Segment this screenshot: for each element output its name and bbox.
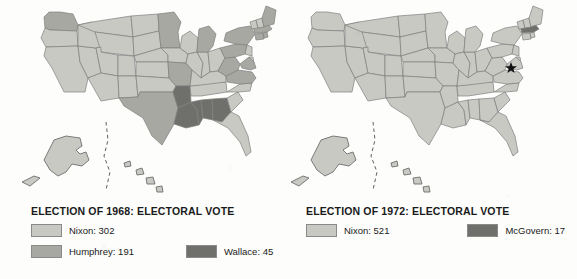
- title-1972: ELECTION OF 1972: ELECTORAL VOTE: [287, 196, 577, 217]
- legend-label-nixon-1968: Nixon: 302: [69, 225, 114, 236]
- state-pa[interactable]: [220, 44, 247, 58]
- legend-1972: Nixon: 521 McGovern: 17: [287, 217, 577, 239]
- state-az[interactable]: [88, 73, 119, 101]
- state-nc[interactable]: [494, 83, 519, 92]
- legend-1968: Nixon: 302 Humphrey: 191 Wallace: 45: [0, 217, 290, 260]
- state-ak[interactable]: [22, 136, 89, 186]
- map-1972-svg: [287, 0, 577, 196]
- caption-1968: ELECTION OF 1968: ELECTORAL VOTE Nixon: …: [0, 196, 290, 264]
- state-mn[interactable]: [425, 12, 448, 48]
- state-ny[interactable]: [491, 26, 522, 45]
- swatch-mcgovern-1972: [467, 224, 498, 237]
- legend-label-humphrey-1968: Humphrey: 191: [69, 246, 134, 257]
- state-me[interactable]: [262, 6, 276, 27]
- title-1968: ELECTION OF 1968: ELECTORAL VOTE: [0, 196, 290, 217]
- caption-1972: ELECTION OF 1972: ELECTORAL VOTE Nixon: …: [287, 196, 577, 243]
- state-wa[interactable]: [311, 12, 345, 31]
- state-ri[interactable]: [530, 32, 535, 38]
- legend-label-nixon-1972: Nixon: 521: [344, 225, 389, 236]
- state-hi[interactable]: [391, 161, 430, 192]
- state-ct[interactable]: [255, 33, 264, 40]
- state-tx[interactable]: [119, 92, 178, 145]
- state-co[interactable]: [118, 55, 136, 76]
- legend-item-humphrey-1968[interactable]: Humphrey: 191: [31, 245, 134, 258]
- state-mn[interactable]: [158, 12, 181, 48]
- state-or[interactable]: [308, 28, 345, 47]
- map-1968-svg: [0, 0, 290, 196]
- state-or[interactable]: [41, 28, 78, 47]
- legend-item-nixon-1968[interactable]: Nixon: 302: [31, 224, 114, 237]
- inset-divider-dashed: [371, 122, 377, 190]
- state-mi[interactable]: [197, 26, 216, 52]
- state-pa[interactable]: [487, 44, 514, 58]
- swatch-nixon-1972: [306, 224, 337, 237]
- state-ks[interactable]: [136, 62, 169, 78]
- legend-item-wallace-1968[interactable]: Wallace: 45: [186, 245, 273, 258]
- legend-item-mcgovern-1972[interactable]: McGovern: 17: [467, 224, 565, 237]
- state-co[interactable]: [385, 55, 403, 76]
- state-ny[interactable]: [224, 26, 255, 45]
- state-al[interactable]: [201, 99, 213, 120]
- state-nm[interactable]: [118, 76, 138, 98]
- state-mi[interactable]: [464, 26, 483, 52]
- panel-election-1968: ELECTION OF 1968: ELECTORAL VOTE Nixon: …: [0, 0, 290, 279]
- state-ks[interactable]: [403, 62, 436, 78]
- map-1968[interactable]: [0, 0, 290, 196]
- state-wa[interactable]: [44, 12, 78, 31]
- state-me[interactable]: [529, 6, 543, 27]
- state-ct[interactable]: [522, 33, 531, 40]
- state-nc[interactable]: [227, 83, 252, 92]
- state-ri[interactable]: [263, 32, 268, 38]
- state-hi[interactable]: [124, 161, 163, 192]
- swatch-nixon-1968: [31, 224, 62, 237]
- legend-row: Humphrey: 191 Wallace: 45: [31, 243, 290, 260]
- swatch-wallace-1968: [186, 245, 217, 258]
- state-tx[interactable]: [386, 92, 445, 145]
- legend-row: Nixon: 521 McGovern: 17: [306, 222, 577, 239]
- inset-divider-dashed: [104, 122, 110, 190]
- legend-label-mcgovern-1972: McGovern: 17: [505, 225, 565, 236]
- legend-row: Nixon: 302: [31, 222, 290, 239]
- state-ak[interactable]: [291, 136, 356, 186]
- legend-label-wallace-1968: Wallace: 45: [224, 246, 273, 257]
- panel-election-1972: ELECTION OF 1972: ELECTORAL VOTE Nixon: …: [287, 0, 577, 279]
- swatch-humphrey-1968: [31, 245, 62, 258]
- map-1972[interactable]: [287, 0, 577, 196]
- state-al[interactable]: [468, 99, 480, 120]
- state-az[interactable]: [355, 73, 386, 101]
- state-nm[interactable]: [385, 76, 405, 98]
- legend-item-nixon-1972[interactable]: Nixon: 521: [306, 224, 389, 237]
